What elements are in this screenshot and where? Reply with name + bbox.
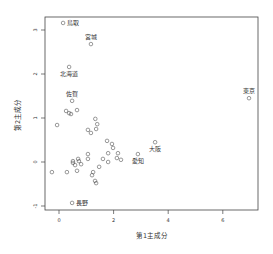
y-tick-label: 2 bbox=[32, 72, 38, 75]
data-point bbox=[105, 139, 109, 143]
data-point bbox=[94, 117, 98, 121]
data-point bbox=[75, 169, 79, 173]
data-point bbox=[55, 123, 59, 127]
x-axis-label: 第1主成分 bbox=[136, 231, 168, 240]
point-label: 北海道 bbox=[60, 70, 78, 78]
data-point bbox=[70, 201, 74, 205]
point-label: 鳥取 bbox=[67, 19, 79, 27]
point-label: 宮城 bbox=[85, 33, 97, 41]
data-point bbox=[116, 151, 120, 155]
data-point bbox=[89, 42, 93, 46]
data-point bbox=[50, 170, 54, 174]
y-tick-label: 3 bbox=[32, 28, 38, 31]
data-point bbox=[90, 173, 94, 177]
y-axis-label: 第2主成分 bbox=[13, 99, 22, 131]
data-point bbox=[101, 157, 105, 161]
point-label: 長野 bbox=[76, 199, 88, 207]
data-point bbox=[106, 160, 110, 164]
y-tick-label: 1 bbox=[32, 116, 38, 119]
data-point bbox=[95, 122, 99, 126]
data-point bbox=[136, 152, 140, 156]
data-point bbox=[73, 163, 77, 167]
data-point bbox=[110, 142, 114, 146]
data-point bbox=[76, 157, 80, 161]
data-point bbox=[86, 128, 90, 132]
y-axis: -10123 bbox=[32, 28, 45, 208]
x-tick-label: 6 bbox=[221, 217, 224, 223]
data-point bbox=[97, 165, 101, 169]
data-point bbox=[93, 179, 97, 183]
data-point bbox=[106, 151, 110, 155]
data-points bbox=[50, 21, 251, 205]
x-axis: 0246 bbox=[57, 210, 224, 223]
data-point bbox=[153, 140, 157, 144]
x-tick-label: 0 bbox=[57, 217, 60, 223]
point-labels: 鳥取宮城北海道佐賀東京大阪愛知長野 bbox=[60, 19, 255, 207]
data-point bbox=[86, 157, 90, 161]
data-point bbox=[94, 181, 98, 185]
point-label: 東京 bbox=[243, 87, 255, 95]
data-point bbox=[65, 170, 69, 174]
plot-frame bbox=[45, 17, 258, 210]
x-tick-label: 4 bbox=[167, 217, 170, 223]
data-point bbox=[111, 146, 115, 150]
point-label: 大阪 bbox=[149, 145, 161, 153]
data-point bbox=[89, 131, 93, 135]
x-tick-label: 2 bbox=[112, 217, 115, 223]
y-tick-label: 0 bbox=[32, 160, 38, 163]
data-point bbox=[115, 156, 119, 160]
data-point bbox=[247, 96, 251, 100]
data-point bbox=[94, 127, 98, 131]
data-point bbox=[67, 65, 71, 69]
y-tick-label: -1 bbox=[32, 204, 38, 209]
data-point bbox=[119, 158, 123, 162]
data-point bbox=[77, 159, 81, 163]
data-point bbox=[86, 152, 90, 156]
data-point bbox=[61, 21, 65, 25]
point-label: 佐賀 bbox=[66, 90, 78, 98]
data-point bbox=[70, 99, 74, 103]
scatter-chart: -10123 0246 鳥取宮城北海道佐賀東京大阪愛知長野 第1主成分 第2主成… bbox=[0, 0, 273, 254]
data-point bbox=[75, 108, 79, 112]
point-label: 愛知 bbox=[132, 157, 144, 165]
